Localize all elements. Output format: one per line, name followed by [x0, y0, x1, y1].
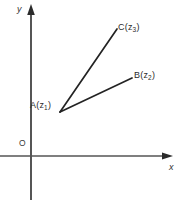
x-axis-label: x: [169, 163, 174, 172]
subscript-2: 2: [148, 74, 152, 81]
point-label-C: C(z3): [118, 23, 140, 32]
point-label-A: A(z1): [30, 101, 51, 110]
diagram-svg: [0, 0, 184, 200]
subscript-3: 3: [133, 26, 137, 33]
figure-canvas: C(z3) B(z2) A(z1) O y x: [0, 0, 184, 200]
segment-A-to-C: [60, 29, 117, 112]
y-axis-arrowhead: [27, 4, 35, 15]
point-label-B: B(z2): [134, 71, 155, 80]
origin-label: O: [19, 139, 26, 148]
subscript-1: 1: [44, 104, 48, 111]
x-axis-arrowhead: [162, 152, 173, 159]
y-axis-label: y: [17, 5, 22, 14]
